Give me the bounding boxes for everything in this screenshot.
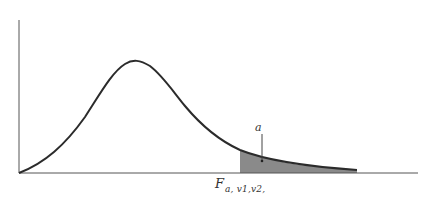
f-distribution-diagram: [0, 0, 435, 198]
tail-area-label: a: [255, 121, 262, 134]
density-curve: [19, 61, 357, 173]
critical-value-label: Fa, v1,v2,: [215, 176, 265, 191]
alpha-pointer-dot: [261, 160, 264, 163]
critical-value-subscript: a, v1,v2,: [225, 184, 265, 194]
critical-value-main: F: [215, 176, 224, 191]
